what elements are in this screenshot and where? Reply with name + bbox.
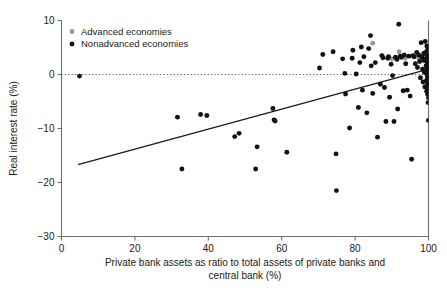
data-point [232, 134, 237, 139]
data-point [364, 110, 369, 115]
data-point [270, 106, 275, 111]
legend-marker-nonadvanced [70, 42, 75, 47]
legend-label: Nonadvanced economies [81, 38, 188, 49]
data-point [397, 49, 402, 54]
x-axis-title-line2: central bank (%) [209, 270, 282, 281]
data-point [320, 52, 325, 57]
data-point [356, 105, 361, 110]
data-point [426, 72, 431, 77]
data-point [395, 107, 400, 112]
data-point [204, 113, 209, 118]
data-point [417, 59, 422, 64]
legend: Advanced economiesNonadvanced economies [70, 26, 189, 50]
data-point [426, 64, 431, 69]
x-tick-label: 60 [276, 243, 288, 254]
axes-group [62, 21, 429, 237]
data-point [426, 118, 431, 123]
data-point [370, 41, 375, 46]
data-point [317, 66, 322, 71]
data-point [237, 131, 242, 136]
data-point [389, 62, 394, 67]
data-point [369, 63, 374, 68]
data-point [423, 39, 428, 44]
data-point [412, 54, 417, 59]
legend-label: Advanced economies [81, 26, 172, 37]
data-point [273, 118, 278, 123]
data-point [396, 22, 401, 27]
data-point [426, 54, 431, 59]
x-axis-title-line1: Private bank assets as ratio to total as… [105, 257, 385, 268]
data-point [403, 61, 408, 66]
legend-marker-advanced [70, 29, 75, 34]
data-point [418, 75, 423, 80]
data-point [360, 88, 365, 93]
data-point [342, 71, 347, 76]
data-point [340, 56, 345, 61]
data-point [426, 100, 431, 105]
data-point [284, 150, 289, 155]
data-point [408, 94, 413, 99]
y-tick-label: 0 [49, 69, 55, 80]
data-point [409, 157, 414, 162]
data-point [425, 47, 430, 52]
scatter-plot-svg: 100−10−20−30020406080100Real interest ra… [0, 0, 447, 294]
data-point [334, 188, 339, 193]
data-point [354, 72, 359, 77]
data-point [426, 59, 431, 64]
data-point [253, 167, 258, 172]
x-tick-label: 0 [59, 243, 65, 254]
data-point [375, 135, 380, 140]
data-point [382, 85, 387, 90]
data-point [361, 54, 366, 59]
y-axis-title: Real interest rate (%) [8, 81, 19, 175]
data-point [373, 60, 378, 65]
data-point [383, 119, 388, 124]
data-point [255, 144, 260, 149]
data-point [426, 95, 431, 100]
legend-entry: Nonadvanced economies [70, 38, 189, 49]
x-tick-label: 100 [420, 243, 437, 254]
data-point [370, 91, 375, 96]
data-point [366, 46, 371, 51]
x-ticks-group: 020406080100 [59, 237, 438, 254]
data-point [343, 91, 348, 96]
data-point [357, 60, 362, 65]
y-ticks-group: 100−10−20−30 [38, 15, 62, 242]
x-tick-label: 80 [350, 243, 362, 254]
y-tick-label: −20 [38, 177, 55, 188]
data-point [390, 73, 395, 78]
data-point [426, 83, 431, 88]
data-point [405, 88, 410, 93]
data-point [415, 65, 420, 70]
data-point [387, 95, 392, 100]
data-point [359, 45, 364, 50]
data-point [386, 54, 391, 59]
data-point [179, 167, 184, 172]
y-tick-label: 10 [43, 15, 55, 26]
data-point [378, 82, 383, 87]
x-tick-label: 20 [129, 243, 141, 254]
data-point [175, 115, 180, 120]
trend-line [78, 69, 428, 165]
legend-entry: Advanced economies [70, 26, 173, 37]
data-point [350, 48, 355, 53]
x-tick-label: 40 [203, 243, 215, 254]
data-point [198, 112, 203, 117]
chart-figure: 100−10−20−30020406080100Real interest ra… [0, 0, 447, 294]
data-point [347, 126, 352, 131]
data-point [402, 53, 407, 58]
data-point [77, 74, 82, 79]
data-point [331, 49, 336, 54]
data-point [368, 33, 373, 38]
y-tick-label: −30 [38, 231, 55, 242]
data-point [334, 151, 339, 156]
y-tick-label: −10 [38, 123, 55, 134]
data-point [381, 55, 386, 60]
data-point [392, 119, 397, 124]
data-point [350, 56, 355, 61]
data-point [406, 54, 411, 59]
